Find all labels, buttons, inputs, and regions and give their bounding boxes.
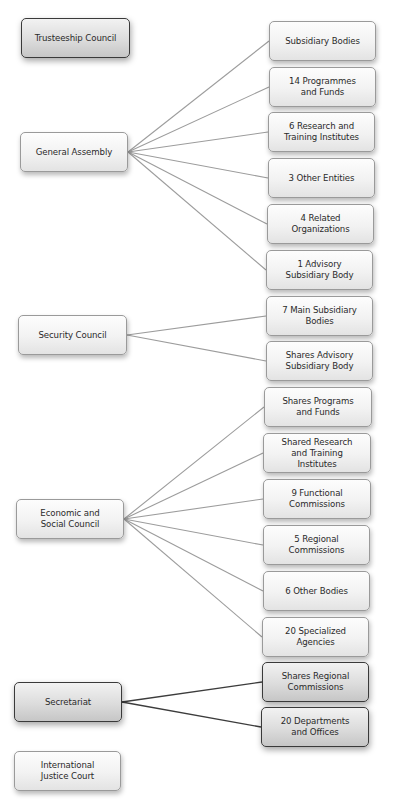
node-es-shared-research-training[interactable]: Shared Research and Training Institutes [263,433,371,473]
node-label: Trusteeship Council [35,33,117,44]
node-label: Shares Regional Commissions [282,671,350,693]
connector-line [128,152,268,178]
node-label: Shares Programs and Funds [282,396,353,418]
node-label: General Assembly [36,147,112,158]
connector-line [128,41,269,152]
node-se-departments-offices[interactable]: 20 Departments and Offices [261,707,369,747]
node-label: 1 Advisory Subsidiary Body [286,259,354,281]
connector-line [128,152,267,224]
node-label: 6 Other Bodies [285,586,348,597]
node-label: 20 Departments and Offices [281,716,350,738]
node-secretariat[interactable]: Secretariat [14,682,122,722]
node-general-assembly[interactable]: General Assembly [20,132,128,172]
connector-line [124,519,263,545]
node-security-council[interactable]: Security Council [18,315,127,355]
connector-line [124,407,264,519]
node-international-justice-court[interactable]: International Justice Court [14,751,121,791]
connector-line [124,519,263,591]
connector-line [128,132,268,152]
node-ga-other-entities[interactable]: 3 Other Entities [268,158,375,198]
node-es-other-bodies[interactable]: 6 Other Bodies [263,571,370,611]
node-label: International Justice Court [41,760,95,782]
node-ga-subsidiary-bodies[interactable]: Subsidiary Bodies [269,21,376,61]
node-es-regional-commissions[interactable]: 5 Regional Commissions [263,525,370,565]
node-label: Economic and Social Council [40,508,99,530]
connector-line [128,152,266,270]
un-system-org-chart: Trusteeship Council General Assembly Sec… [0,0,393,807]
node-label: 20 Specialized Agencies [285,626,346,648]
connector-line [122,702,261,727]
connector-line [124,519,262,637]
node-label: 9 Functional Commissions [289,488,345,510]
connector-line [124,499,263,519]
connector-line [127,316,266,335]
node-label: 14 Programmes and Funds [289,76,356,98]
node-label: 7 Main Subsidiary Bodies [282,305,357,327]
node-sc-shares-advisory-body[interactable]: Shares Advisory Subsidiary Body [266,341,373,381]
node-label: 3 Other Entities [289,173,355,184]
node-ga-related-organizations[interactable]: 4 Related Organizations [267,204,374,244]
node-se-shares-regional-commissions[interactable]: Shares Regional Commissions [262,662,369,702]
node-trusteeship-council[interactable]: Trusteeship Council [21,18,130,58]
node-sc-main-subsidiary-bodies[interactable]: 7 Main Subsidiary Bodies [266,296,373,336]
node-es-shares-programs-funds[interactable]: Shares Programs and Funds [264,387,372,427]
node-label: 6 Research and Training Institutes [284,121,359,143]
node-label: Secretariat [45,697,91,708]
connector-line [122,682,262,702]
connector-line [127,335,266,361]
node-label: Security Council [38,330,106,341]
node-label: Shared Research and Training Institutes [282,437,353,470]
node-ga-research-training[interactable]: 6 Research and Training Institutes [268,112,375,152]
connector-line [128,87,269,152]
node-label: 5 Regional Commissions [289,534,345,556]
node-label: 4 Related Organizations [291,213,349,235]
node-economic-social-council[interactable]: Economic and Social Council [16,499,124,539]
node-label: Shares Advisory Subsidiary Body [286,350,354,372]
node-es-specialized-agencies[interactable]: 20 Specialized Agencies [262,617,369,657]
node-ga-advisory-subsidiary-body[interactable]: 1 Advisory Subsidiary Body [266,250,373,290]
node-label: Subsidiary Bodies [285,36,360,47]
connector-line [124,453,263,519]
node-es-functional-commissions[interactable]: 9 Functional Commissions [263,479,371,519]
node-ga-programmes-funds[interactable]: 14 Programmes and Funds [269,67,376,107]
